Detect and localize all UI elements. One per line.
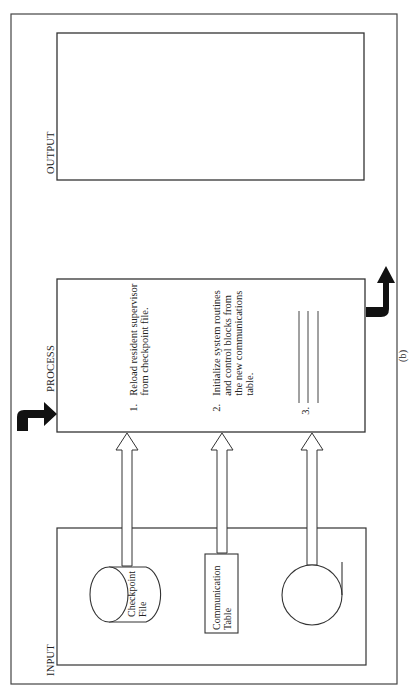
step3-placeholder-lines: [299, 311, 318, 403]
output-label: OUTPUT: [45, 131, 56, 174]
exit-bent-arrow-icon: [366, 266, 395, 317]
step-2-text: Initialize system routines and control b…: [211, 290, 255, 396]
step-1-number: 1.: [128, 396, 139, 412]
input-to-process-arrows: [116, 433, 323, 566]
arrow-checkpoint-to-process: [116, 433, 138, 566]
process-label: PROCESS: [45, 345, 56, 392]
entry-bent-arrow-icon: [17, 402, 57, 431]
process-step-2: 2.Initialize system routines and control…: [200, 290, 255, 417]
process-step-3: 3.: [289, 407, 311, 420]
communication-table-label: Communication Table: [212, 566, 233, 630]
tape-reel-icon: [282, 562, 342, 625]
input-label: INPUT: [45, 644, 56, 676]
step-2-number: 2.: [211, 396, 222, 412]
figure-caption: (b): [397, 350, 408, 362]
step-3-number: 3.: [300, 407, 311, 415]
step-1-text: Reload resident supervisor from checkpoi…: [128, 284, 150, 396]
checkpoint-file-label: Checkpoint File: [127, 571, 148, 617]
arrow-tape-to-process: [301, 433, 323, 565]
output-box: [57, 33, 364, 180]
process-step-1: 1.Reload resident supervisor from checkp…: [117, 284, 150, 417]
arrow-commtable-to-process: [211, 433, 233, 553]
